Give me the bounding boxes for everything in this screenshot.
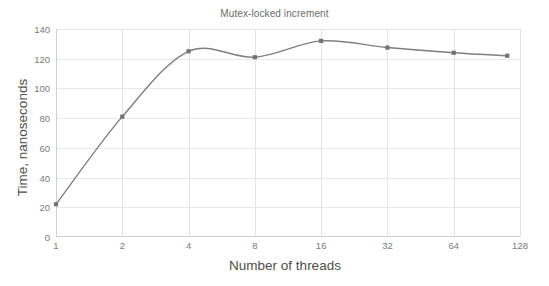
data-point-marker bbox=[505, 54, 509, 58]
chart-container: Mutex-locked increment Time, nanoseconds… bbox=[0, 0, 549, 286]
grid-line-vertical bbox=[520, 29, 521, 237]
data-point-marker bbox=[186, 49, 190, 53]
x-axis-tick-labels: 1248163264128 bbox=[56, 240, 520, 256]
series-path bbox=[56, 41, 507, 205]
y-axis-tick-label: 60 bbox=[10, 142, 50, 153]
y-axis-tick-label: 20 bbox=[10, 202, 50, 213]
chart-title: Mutex-locked increment bbox=[0, 8, 549, 19]
x-axis-tick-label: 64 bbox=[434, 240, 474, 251]
data-point-marker bbox=[385, 45, 389, 49]
x-axis-tick-label: 8 bbox=[235, 240, 275, 251]
series-markers bbox=[54, 39, 509, 207]
x-axis-tick-label: 16 bbox=[301, 240, 341, 251]
data-point-marker bbox=[452, 51, 456, 55]
x-axis-tick-label: 2 bbox=[102, 240, 142, 251]
plot-area bbox=[56, 29, 520, 237]
x-axis-tick-label: 32 bbox=[367, 240, 407, 251]
x-axis-tick-label: 1 bbox=[36, 240, 76, 251]
data-point-marker bbox=[253, 55, 257, 59]
y-axis-tick-label: 100 bbox=[10, 83, 50, 94]
y-axis-tick-label: 140 bbox=[10, 24, 50, 35]
x-axis-tick-label: 4 bbox=[169, 240, 209, 251]
y-axis-tick-labels: 020406080100120140 bbox=[8, 29, 50, 237]
data-series-line bbox=[56, 29, 520, 237]
y-axis-tick-label: 120 bbox=[10, 53, 50, 64]
data-point-marker bbox=[120, 115, 124, 119]
y-axis-tick-label: 40 bbox=[10, 172, 50, 183]
x-axis-tick-label: 128 bbox=[500, 240, 540, 251]
y-axis-tick-label: 80 bbox=[10, 113, 50, 124]
data-point-marker bbox=[319, 39, 323, 43]
x-axis-title: Number of threads bbox=[55, 258, 515, 273]
data-point-marker bbox=[54, 202, 58, 206]
